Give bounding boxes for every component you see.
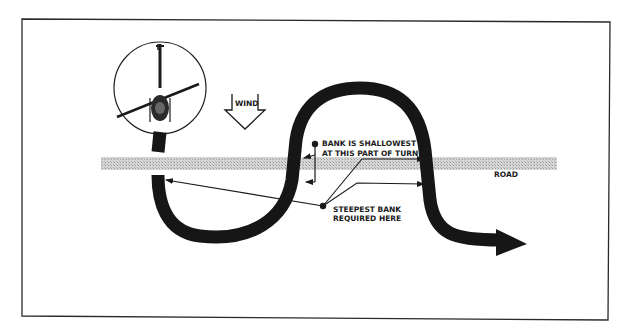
diagram-canvas: ROAD WIND BANK IS SHALLOWEST AT THIS PAR… <box>0 0 625 333</box>
shallow-label-line2: AT THIS PART OF TURN <box>322 149 418 158</box>
wind-arrow-icon: WIND <box>225 94 265 129</box>
flight-path-arrowhead <box>496 229 527 256</box>
wind-label: WIND <box>235 99 259 108</box>
shallow-label-line1: BANK IS SHALLOWEST <box>322 139 417 148</box>
road-label: ROAD <box>494 170 518 179</box>
road: ROAD <box>101 157 557 179</box>
steep-label-line1: STEEPEST BANK <box>333 205 402 214</box>
steep-label-line2: REQUIRED HERE <box>333 214 401 223</box>
helicopter-icon <box>114 42 206 152</box>
